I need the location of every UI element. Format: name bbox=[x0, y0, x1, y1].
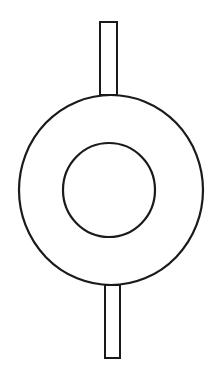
top-bar-shape bbox=[100, 22, 117, 95]
ring-with-bars-drawing bbox=[0, 0, 222, 379]
bottom-bar-shape bbox=[105, 285, 120, 358]
inner-circle-shape bbox=[63, 143, 155, 237]
outer-circle-shape bbox=[19, 95, 203, 285]
diagram-canvas bbox=[0, 0, 222, 379]
